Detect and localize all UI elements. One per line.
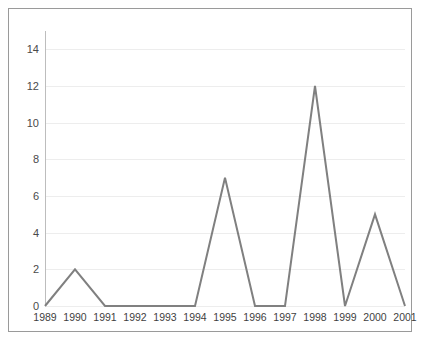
x-axis-tick-label: 1996 xyxy=(243,311,266,323)
x-axis-tick-label: 1991 xyxy=(93,311,116,323)
line-series xyxy=(45,31,405,306)
y-axis-tick-label: 6 xyxy=(33,190,39,202)
x-axis-tick-label: 1992 xyxy=(123,311,146,323)
x-axis-tick-label: 1993 xyxy=(153,311,176,323)
x-axis-tick-label: 1994 xyxy=(183,311,206,323)
series-polyline xyxy=(45,86,405,306)
y-axis-tick-label: 8 xyxy=(33,153,39,165)
x-axis-tick-label: 1990 xyxy=(63,311,86,323)
x-axis-tick-label: 1995 xyxy=(213,311,236,323)
x-axis-tick-label: 2000 xyxy=(363,311,386,323)
chart-frame: 02468101214 1989199019911992199319941995… xyxy=(8,8,412,332)
x-axis-tick-labels: 1989199019911992199319941995199619971998… xyxy=(45,306,405,328)
y-axis-tick-label: 12 xyxy=(27,80,39,92)
y-axis-tick-label: 2 xyxy=(33,263,39,275)
x-axis-tick-label: 1998 xyxy=(303,311,326,323)
chart-canvas: 02468101214 1989199019911992199319941995… xyxy=(9,9,411,331)
x-axis-tick-label: 2001 xyxy=(393,311,416,323)
y-axis-tick-label: 14 xyxy=(27,43,39,55)
x-axis-tick-label: 1989 xyxy=(33,311,56,323)
x-axis-tick-label: 1999 xyxy=(333,311,356,323)
y-axis-tick-label: 10 xyxy=(27,117,39,129)
plot-area: 02468101214 1989199019911992199319941995… xyxy=(45,31,405,306)
x-axis-tick-label: 1997 xyxy=(273,311,296,323)
y-axis-tick-label: 4 xyxy=(33,227,39,239)
